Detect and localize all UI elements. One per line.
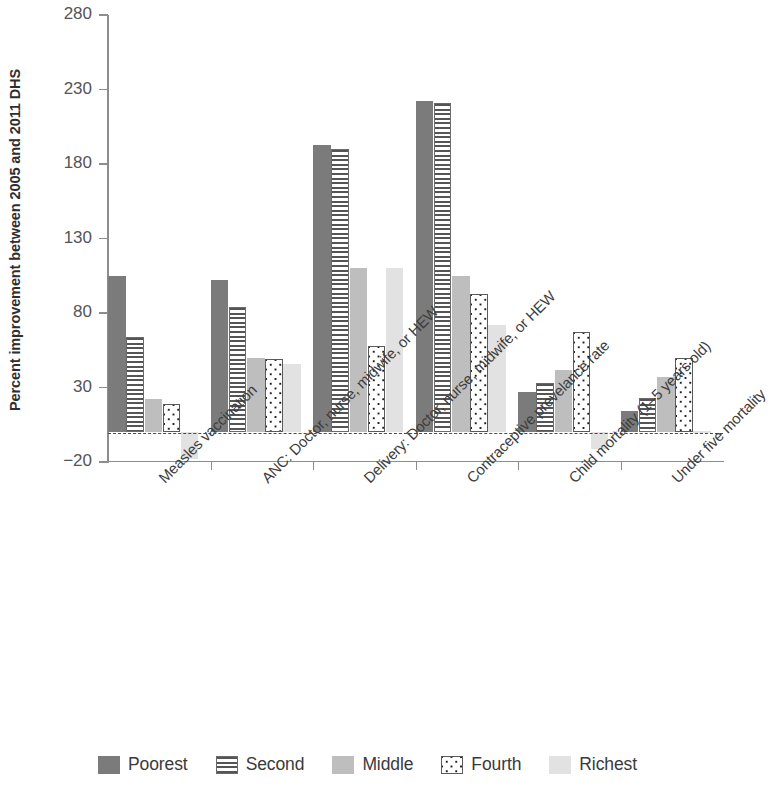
y-tick-label: 130 <box>0 228 92 248</box>
legend-label: Fourth <box>471 754 521 775</box>
legend-label: Middle <box>362 754 413 775</box>
legend-swatch <box>441 756 463 774</box>
bar-group <box>108 15 211 462</box>
bar <box>350 268 368 432</box>
legend-item: Fourth <box>441 754 521 775</box>
plot-area <box>108 15 723 462</box>
y-tick-label: 80 <box>0 302 92 322</box>
y-tick-mark <box>99 312 108 313</box>
legend-swatch <box>98 756 120 774</box>
bar <box>416 101 434 432</box>
bar <box>108 276 126 432</box>
legend-label: Second <box>246 754 305 775</box>
bar-group <box>416 15 519 462</box>
legend-swatch <box>549 756 571 774</box>
x-tick-mark <box>313 461 314 470</box>
bar <box>283 364 301 433</box>
bar <box>126 337 144 432</box>
legend-swatch <box>332 756 354 774</box>
legend-swatch <box>216 756 238 774</box>
y-tick-label: 230 <box>0 79 92 99</box>
legend-label: Poorest <box>128 754 188 775</box>
x-tick-mark <box>621 461 622 470</box>
x-tick-mark <box>416 461 417 470</box>
y-tick-label: −20 <box>0 451 92 471</box>
y-tick-label: 280 <box>0 4 92 24</box>
x-tick-mark <box>211 461 212 470</box>
legend-item: Richest <box>549 754 637 775</box>
legend-item: Poorest <box>98 754 188 775</box>
x-tick-mark <box>518 461 519 470</box>
bar <box>434 103 452 432</box>
bar-group <box>518 15 621 462</box>
bar-group <box>211 15 314 462</box>
y-tick-mark <box>99 238 108 239</box>
y-tick-mark <box>99 387 108 388</box>
y-tick-mark <box>99 14 108 15</box>
y-tick-label: 30 <box>0 377 92 397</box>
bar-group <box>621 15 724 462</box>
bar <box>145 399 163 432</box>
bar <box>313 145 331 433</box>
chart-legend: PoorestSecondMiddleFourthRichest <box>0 754 735 775</box>
y-tick-mark <box>99 163 108 164</box>
legend-item: Middle <box>332 754 413 775</box>
y-tick-label: 180 <box>0 153 92 173</box>
legend-label: Richest <box>579 754 637 775</box>
bar <box>452 276 470 432</box>
bar <box>163 404 181 432</box>
y-tick-mark <box>99 89 108 90</box>
y-tick-mark <box>99 461 108 462</box>
bar <box>265 359 283 432</box>
bar-group <box>313 15 416 462</box>
legend-item: Second <box>216 754 305 775</box>
